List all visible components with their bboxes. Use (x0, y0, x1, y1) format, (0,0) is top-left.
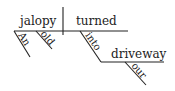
modifier-our: our (129, 60, 149, 80)
object-word: driveway (111, 47, 167, 61)
modifier-an: An (16, 29, 33, 48)
subject-word: jalopy (18, 14, 57, 28)
verb-word: turned (76, 14, 117, 28)
sentence-diagram: jalopy turned An old into driveway our (0, 0, 175, 91)
